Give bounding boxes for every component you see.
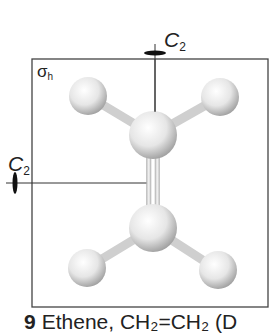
c2-vertical-label: C2 [164,28,186,54]
caption-text: Ethene, CH₂=CH₂ (D [42,310,237,333]
carbon-atom-top [129,111,177,159]
figure-caption: 9Ethene, CH₂=CH₂ (D [24,310,237,333]
hydrogen-atom-top-left [69,77,107,115]
ethene-symmetry-diagram [0,0,276,333]
c2-horizontal-label: C2 [8,152,30,178]
hydrogen-atom-bottom-left [68,249,106,287]
hydrogen-atom-bottom-right [199,251,237,289]
figure-number: 9 [24,310,36,333]
carbon-atom-bottom [129,204,177,252]
sigma-h-label: σh [37,62,53,82]
c2-vertical-rotor-icon [144,51,166,56]
hydrogen-atom-top-right [201,78,239,116]
